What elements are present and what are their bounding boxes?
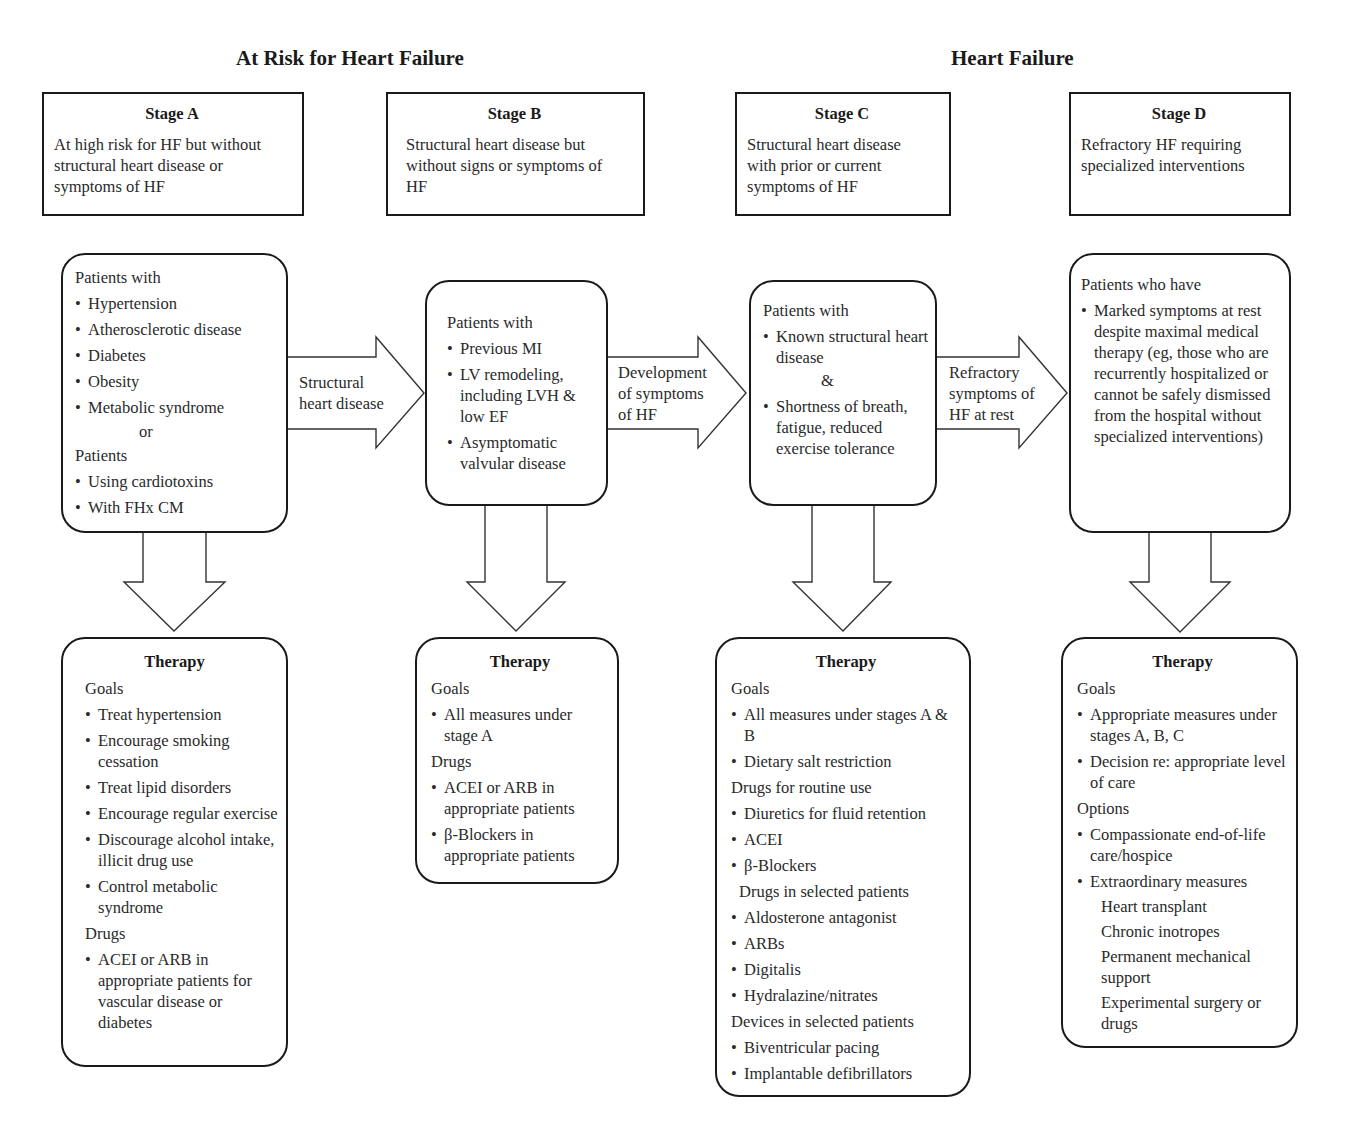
therapy-a-box: Therapy Goals Treat hypertension Encoura… — [61, 637, 288, 1067]
transition-label-line: Structural — [299, 372, 384, 393]
stage-a-description: At high risk for HF but without structur… — [54, 134, 290, 197]
list-item: Using cardiotoxins — [75, 471, 278, 492]
therapy-c-box: Therapy Goals All measures under stages … — [715, 637, 971, 1097]
list-item: Encourage regular exercise — [85, 803, 278, 824]
list-item: ACEI or ARB in appropriate patients for … — [85, 949, 278, 1033]
arrow-down-b — [467, 505, 565, 631]
therapy-a-goals-label: Goals — [85, 678, 278, 699]
patients-c-box: Patients with Known structural heart dis… — [749, 280, 937, 506]
patients-b-box: Patients with Previous MI LV remodeling,… — [425, 280, 608, 506]
patients-c-heading: Patients with — [763, 300, 929, 321]
list-item: All measures under stage A — [431, 704, 609, 746]
patients-a-connector: or — [75, 421, 278, 442]
transition-label-line: of symptoms — [618, 383, 707, 404]
list-item: Digitalis — [731, 959, 961, 980]
stage-c-description: Structural heart disease with prior or c… — [747, 134, 937, 197]
transition-label-line: Development — [618, 362, 707, 383]
stage-d-name: Stage D — [1081, 104, 1277, 124]
list-item: Obesity — [75, 371, 278, 392]
patients-a-box: Patients with Hypertension Atherosclerot… — [61, 253, 288, 533]
patients-a-heading: Patients with — [75, 267, 278, 288]
transition-label-a-b: Structural heart disease — [299, 372, 384, 414]
stage-a-name: Stage A — [54, 104, 290, 124]
list-item: Diabetes — [75, 345, 278, 366]
list-item: ACEI — [731, 829, 961, 850]
patients-a-heading2: Patients — [75, 445, 278, 466]
transition-label-c-d: Refractory symptoms of HF at rest — [949, 362, 1035, 425]
stage-b-description: Structural heart disease but without sig… — [398, 134, 631, 197]
transition-label-line: heart disease — [299, 393, 384, 414]
stage-a-box: Stage A At high risk for HF but without … — [42, 92, 304, 216]
list-item: ARBs — [731, 933, 961, 954]
therapy-b-title: Therapy — [431, 651, 609, 672]
therapy-a-drugs-label: Drugs — [85, 923, 278, 944]
list-item: β-Blockers — [731, 855, 961, 876]
patients-c-connector: & — [763, 370, 929, 391]
transition-label-line: HF at rest — [949, 404, 1035, 425]
therapy-c-devices-label: Devices in selected patients — [731, 1011, 961, 1032]
patients-d-heading: Patients who have — [1081, 274, 1281, 295]
list-item: Metabolic syndrome — [75, 397, 278, 418]
patients-d-box: Patients who have Marked symptoms at res… — [1069, 253, 1291, 533]
stage-d-box: Stage D Refractory HF requiring speciali… — [1069, 92, 1291, 216]
list-item: Known structural heart disease — [763, 326, 929, 368]
list-item: All measures under stages A & B — [731, 704, 961, 746]
list-item: Treat hypertension — [85, 704, 278, 725]
list-item: Appropriate measures under stages A, B, … — [1077, 704, 1288, 746]
extraordinary-item: Permanent mechanical support — [1077, 946, 1288, 988]
extraordinary-item: Heart transplant — [1077, 896, 1288, 917]
list-item: Implantable defibrillators — [731, 1063, 961, 1084]
list-item: Compassionate end-of-life care/hospice — [1077, 824, 1288, 866]
list-item: Hypertension — [75, 293, 278, 314]
therapy-c-selected-label: Drugs in selected patients — [731, 881, 961, 902]
therapy-c-routine-label: Drugs for routine use — [731, 777, 961, 798]
list-item: Biventricular pacing — [731, 1037, 961, 1058]
therapy-d-goals-label: Goals — [1077, 678, 1288, 699]
transition-label-line: of HF — [618, 404, 707, 425]
stage-b-name: Stage B — [398, 104, 631, 124]
extraordinary-item: Experimental surgery or drugs — [1077, 992, 1288, 1034]
list-item: Decision re: appropriate level of care — [1077, 751, 1288, 793]
therapy-d-box: Therapy Goals Appropriate measures under… — [1061, 637, 1298, 1048]
therapy-d-options-label: Options — [1077, 798, 1288, 819]
list-item: Aldosterone antagonist — [731, 907, 961, 928]
arrow-down-a — [124, 531, 225, 631]
therapy-c-title: Therapy — [731, 651, 961, 672]
arrow-down-d — [1130, 531, 1230, 632]
stage-d-description: Refractory HF requiring specialized inte… — [1081, 134, 1277, 176]
list-item: β-Blockers in appropriate patients — [431, 824, 609, 866]
list-item: LV remodeling, including LVH & low EF — [447, 364, 600, 427]
therapy-a-title: Therapy — [71, 651, 278, 672]
list-item: ACEI or ARB in appropriate patients — [431, 777, 609, 819]
therapy-d-title: Therapy — [1077, 651, 1288, 672]
list-item: Asymptomatic valvular disease — [447, 432, 600, 474]
list-item: Encourage smoking cessation — [85, 730, 278, 772]
list-item: Extraordinary measures — [1077, 871, 1288, 892]
list-item: Atherosclerotic disease — [75, 319, 278, 340]
therapy-b-box: Therapy Goals All measures under stage A… — [415, 637, 619, 884]
list-item: Control metabolic syndrome — [85, 876, 278, 918]
transition-label-line: symptoms of — [949, 383, 1035, 404]
group-title-at-risk: At Risk for Heart Failure — [236, 46, 464, 71]
list-item: Marked symptoms at rest despite maximal … — [1081, 300, 1281, 447]
list-item: Dietary salt restriction — [731, 751, 961, 772]
therapy-b-drugs-label: Drugs — [431, 751, 609, 772]
list-item: Previous MI — [447, 338, 600, 359]
patients-b-heading: Patients with — [447, 312, 600, 333]
group-title-heart-failure: Heart Failure — [951, 46, 1074, 71]
stage-c-name: Stage C — [747, 104, 937, 124]
list-item: With FHx CM — [75, 497, 278, 518]
list-item: Diuretics for fluid retention — [731, 803, 961, 824]
therapy-c-goals-label: Goals — [731, 678, 961, 699]
list-item: Shortness of breath, fatigue, reduced ex… — [763, 396, 929, 459]
transition-label-line: Refractory — [949, 362, 1035, 383]
therapy-b-goals-label: Goals — [431, 678, 609, 699]
stage-c-box: Stage C Structural heart disease with pr… — [735, 92, 951, 216]
arrow-down-c — [793, 505, 891, 631]
stage-b-box: Stage B Structural heart disease but wit… — [386, 92, 645, 216]
list-item: Treat lipid disorders — [85, 777, 278, 798]
extraordinary-item: Chronic inotropes — [1077, 921, 1288, 942]
transition-label-b-c: Development of symptoms of HF — [618, 362, 707, 425]
list-item: Discourage alcohol intake, illicit drug … — [85, 829, 278, 871]
list-item: Hydralazine/nitrates — [731, 985, 961, 1006]
